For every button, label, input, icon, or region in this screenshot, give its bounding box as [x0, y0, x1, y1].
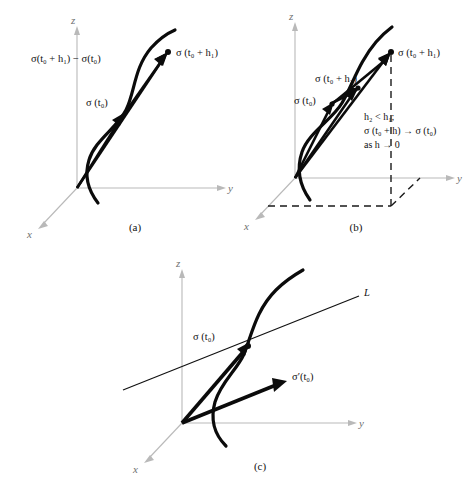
label-line-c: L [363, 287, 370, 298]
label-endpoint-h1-b: σ (t₀ + h₁) [398, 47, 440, 59]
label-derivative-c: σ′(t₀) [292, 371, 314, 383]
point-t0-b [329, 101, 334, 106]
axis-label-z-a: z [70, 14, 76, 26]
axis-label-x-a: x [26, 228, 32, 240]
x-axis-c [144, 423, 182, 463]
y-axis-b [295, 175, 455, 181]
point-t0h1-b [388, 49, 394, 55]
note-line-1-b: h₂ < h₁; [364, 111, 395, 122]
label-difference-a: σ(t₀ + h₁) − σ(t₀) [31, 53, 101, 65]
z-axis-c [179, 269, 185, 423]
y-axis-c [182, 420, 357, 426]
panel-a: z y x σ(t₀ + h₁) − σ(t₀) σ (t₀ + h₁) σ (… [0, 0, 236, 250]
point-t0-c [245, 343, 251, 349]
figure-root: z y x σ(t₀ + h₁) − σ(t₀) σ (t₀ + h₁) σ (… [0, 0, 474, 492]
label-basepoint-a: σ (t₀) [86, 97, 108, 109]
point-t0h2-b [355, 85, 360, 90]
caption-b: (b) [350, 221, 363, 234]
tangent-line-c [123, 296, 359, 390]
x-axis-b [255, 178, 295, 220]
axis-label-y-b: y [456, 172, 462, 184]
z-axis-a [74, 26, 80, 188]
label-basepoint-b: σ (t₀) [294, 95, 316, 107]
position-vector-t0-b [295, 102, 334, 178]
axis-label-y-c: y [358, 417, 364, 429]
point-t0h1-a [165, 49, 171, 55]
note-line-3-b: as h → 0 [364, 139, 400, 150]
difference-vector-a [120, 52, 168, 120]
axis-label-x-b: x [243, 220, 249, 232]
axis-label-z-b: z [288, 10, 294, 22]
label-endpoint-a: σ (t₀ + h₁) [176, 47, 218, 59]
axis-label-x-c: x [132, 463, 138, 475]
label-basepoint-c: σ (t₀) [193, 331, 215, 343]
label-endpoint-h2-b: σ (t₀ + h₂) [315, 73, 357, 85]
caption-c: (c) [254, 460, 267, 473]
panel-b: z y x σ (t₀ + h₁) σ (t₀ + h₂) σ (t₀) h₂ … [236, 0, 474, 250]
caption-a: (a) [129, 221, 142, 234]
note-line-2-b: σ (t₀ + h) → σ (t₀) [364, 125, 436, 137]
axis-label-z-c: z [175, 257, 181, 269]
derivative-vector-c [182, 378, 287, 423]
panel-c: z y x L σ (t₀) σ′(t₀) (c) [110, 248, 374, 492]
point-t0-a [117, 117, 122, 122]
space-curve-c [213, 270, 303, 446]
x-axis-a [38, 188, 77, 229]
axis-label-y-a: y [227, 182, 233, 194]
y-axis-a [77, 185, 226, 191]
